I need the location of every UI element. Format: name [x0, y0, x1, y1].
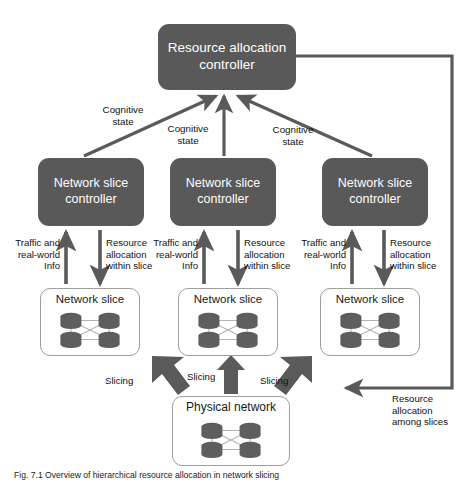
network-slice-1[interactable]: Network slice [40, 288, 140, 356]
nsc-1-label-line2: controller [54, 192, 128, 208]
physical-network[interactable]: Physical network [172, 396, 290, 466]
network-slice-3-label: Network slice [321, 293, 419, 306]
edge-label-slicing-1: Slicing [105, 375, 133, 387]
network-slice-1-label: Network slice [41, 293, 139, 306]
nsc-1-label-line1: Network slice [54, 176, 128, 192]
edge-label-traffic-info-2: Traffic and real-world Info [142, 237, 198, 272]
network-slice-controller-3[interactable]: Network slice controller [322, 158, 428, 226]
rac-label-line2: controller [168, 57, 287, 74]
slice-2-arrows [204, 230, 238, 284]
resource-allocation-controller[interactable]: Resource allocation controller [158, 24, 296, 90]
edge-label-traffic-info-1: Traffic and real-world Info [6, 237, 60, 272]
edge-label-slicing-3: Slicing [260, 375, 288, 387]
edge-label-resource-among-slices: Resource allocation among slices [392, 393, 466, 428]
edge-label-slicing-2: Slicing [187, 371, 215, 383]
network-slice-3-topology [321, 308, 419, 350]
network-slice-3[interactable]: Network slice [320, 288, 420, 356]
nsc-3-label-line1: Network slice [338, 176, 412, 192]
edge-label-traffic-info-3: Traffic and real-world Info [290, 237, 346, 272]
network-slice-controller-1[interactable]: Network slice controller [38, 158, 144, 226]
nsc-2-label-line2: controller [186, 192, 260, 208]
figure-canvas: Resource allocation controller Network s… [0, 0, 476, 486]
slice-3-arrows [352, 230, 384, 284]
nsc-2-label-line1: Network slice [186, 176, 260, 192]
edge-label-cognitive-state-1: Cognitive state [92, 104, 154, 128]
network-slice-controller-2[interactable]: Network slice controller [170, 158, 276, 226]
physical-network-label: Physical network [173, 401, 289, 414]
edge-label-cognitive-state-2: Cognitive state [157, 123, 219, 147]
network-slice-2-label: Network slice [179, 293, 277, 306]
rac-label-line1: Resource allocation [168, 40, 287, 57]
slice-1-arrows [66, 230, 100, 284]
figure-caption: Fig. 7.1 Overview of hierarchical resour… [14, 470, 454, 481]
network-slice-2[interactable]: Network slice [178, 288, 278, 356]
physical-network-topology [173, 418, 289, 460]
network-slice-1-topology [41, 308, 139, 350]
nsc-3-label-line2: controller [338, 192, 412, 208]
network-slice-2-topology [179, 308, 277, 350]
edge-label-cognitive-state-3: Cognitive state [262, 124, 324, 148]
edge-label-resource-within-slice-3: Resource allocation within slice [390, 237, 448, 272]
